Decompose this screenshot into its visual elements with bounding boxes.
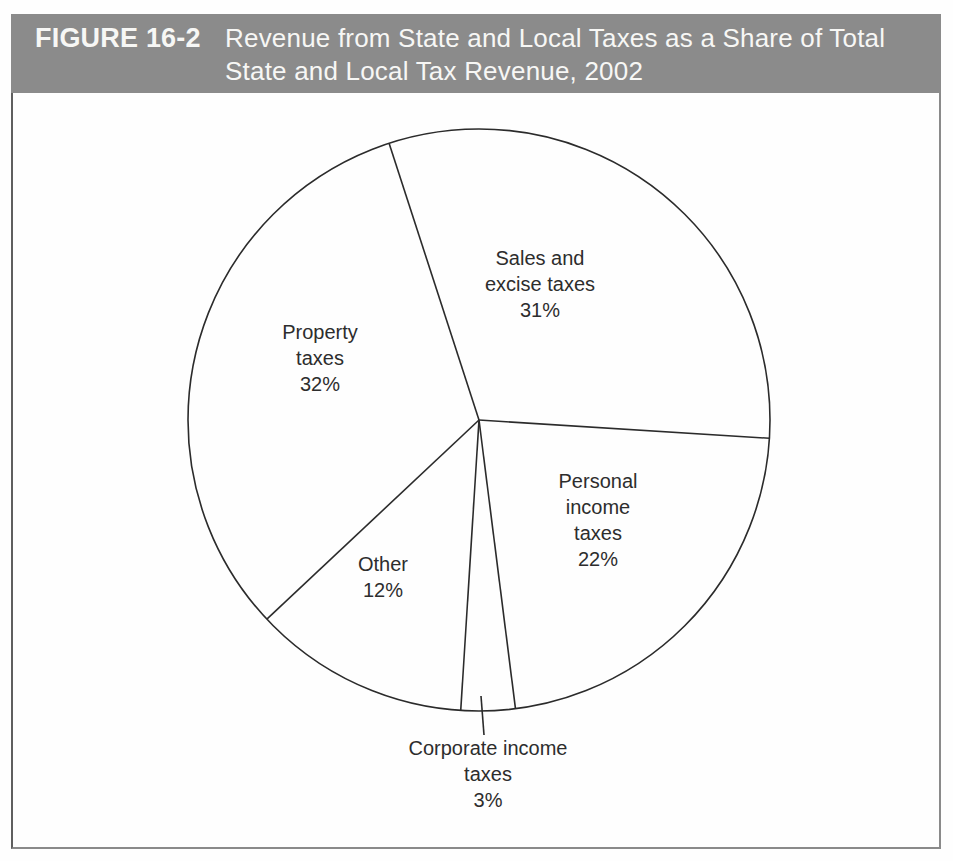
slice-name: Other bbox=[328, 551, 438, 577]
slice-label-property-taxes: Property taxes 32% bbox=[270, 319, 370, 397]
slice-percent: 32% bbox=[270, 371, 370, 397]
figure-page: FIGURE 16-2 Revenue from State and Local… bbox=[0, 0, 953, 861]
slice-percent: 3% bbox=[393, 787, 583, 813]
slice-percent: 12% bbox=[328, 577, 438, 603]
slice-label-sales-and-excise-taxes: Sales and excise taxes 31% bbox=[474, 245, 606, 323]
slice-label-corporate-income-taxes: Corporate income taxes 3% bbox=[393, 735, 583, 813]
figure-title-line2: State and Local Tax Revenue, 2002 bbox=[225, 55, 885, 88]
slice-percent: 22% bbox=[552, 546, 644, 572]
figure-number: FIGURE 16-2 bbox=[35, 22, 225, 55]
slice-name: Personal income taxes bbox=[552, 468, 644, 546]
figure-title-line1: Revenue from State and Local Taxes as a … bbox=[225, 22, 885, 55]
slice-name: Corporate income taxes bbox=[393, 735, 583, 787]
slice-name: Sales and excise taxes bbox=[474, 245, 606, 297]
slice-label-other: Other 12% bbox=[328, 551, 438, 603]
figure-title: Revenue from State and Local Taxes as a … bbox=[225, 22, 885, 88]
figure-header: FIGURE 16-2 Revenue from State and Local… bbox=[11, 14, 941, 93]
slice-label-personal-income-taxes: Personal income taxes 22% bbox=[552, 468, 644, 572]
slice-name: Property taxes bbox=[270, 319, 370, 371]
slice-percent: 31% bbox=[474, 297, 606, 323]
